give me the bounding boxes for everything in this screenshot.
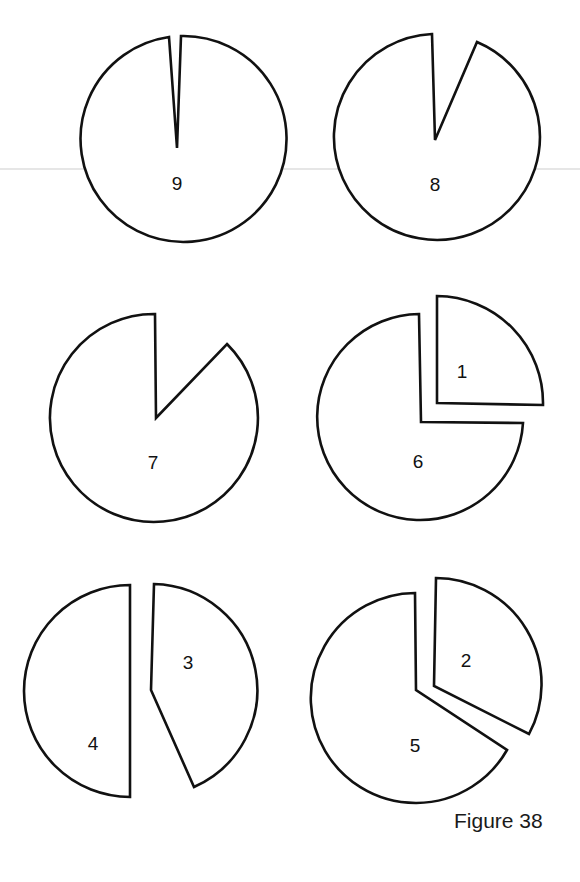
piece-2: 2: [434, 578, 542, 734]
half-circle-4: 4: [24, 585, 130, 797]
piece-3: 3: [151, 584, 257, 787]
label-2: 2: [461, 650, 472, 671]
label-1: 1: [457, 361, 468, 382]
label-6: 6: [413, 451, 424, 472]
label-9: 9: [172, 173, 183, 194]
label-3: 3: [183, 652, 194, 673]
piece-1: 1: [437, 296, 543, 405]
label-7: 7: [148, 452, 159, 473]
circle-9: 9: [81, 36, 287, 242]
figure-caption: Figure 38: [454, 809, 543, 833]
label-4: 4: [88, 733, 99, 754]
label-8: 8: [430, 174, 441, 195]
fraction-circles-figure: 9 8 7 6 1 4 3 5 2: [0, 0, 580, 882]
label-5: 5: [410, 735, 421, 756]
circle-7: 7: [50, 314, 258, 522]
circle-8: 8: [334, 34, 540, 240]
